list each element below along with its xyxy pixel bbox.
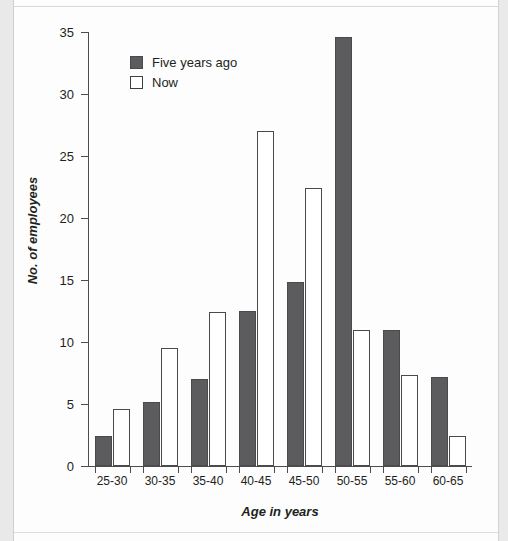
x-axis-tick — [287, 466, 288, 473]
x-axis-tick — [130, 466, 131, 473]
x-axis-tick — [191, 466, 192, 473]
y-axis-tick-label: 20 — [14, 211, 74, 226]
y-axis-tick-label: 25 — [14, 149, 74, 164]
bar-35-40-now — [209, 312, 226, 466]
x-axis-tick — [274, 466, 275, 473]
bar-55-60-five-years-ago — [383, 330, 400, 466]
legend-label-five-years-ago: Five years ago — [152, 55, 237, 70]
legend-item-five-years-ago: Five years ago — [130, 52, 237, 72]
x-axis-line — [88, 466, 472, 467]
x-axis-tick — [239, 466, 240, 473]
bar-chart-figure: 05101520253035 25-3030-3535-4040-4545-50… — [14, 8, 498, 533]
x-axis-tick — [226, 466, 227, 473]
bars-layer — [88, 32, 472, 466]
bar-60-65-five-years-ago — [431, 377, 448, 466]
x-axis-tick-label-25-30: 25-30 — [97, 474, 128, 488]
x-axis-tick — [383, 466, 384, 473]
bar-50-55-five-years-ago — [335, 37, 352, 466]
x-axis-tick-label-55-60: 55-60 — [385, 474, 416, 488]
x-axis-title: Age in years — [88, 504, 472, 519]
bar-25-30-now — [113, 409, 130, 466]
y-axis-tick-label: 15 — [14, 273, 74, 288]
x-axis-tick — [143, 466, 144, 473]
page-top-rule — [14, 6, 498, 7]
x-axis-tick — [322, 466, 323, 473]
x-axis-tick — [335, 466, 336, 473]
x-axis-tick-labels: 25-3030-3535-4040-4545-5050-5555-6060-65 — [88, 474, 472, 494]
bar-45-50-now — [305, 188, 322, 466]
y-axis-tick-label: 10 — [14, 335, 74, 350]
bar-55-60-now — [401, 375, 418, 466]
x-axis-tick-label-60-65: 60-65 — [433, 474, 464, 488]
bar-50-55-now — [353, 330, 370, 466]
x-axis-tick-label-50-55: 50-55 — [337, 474, 368, 488]
y-axis-tick — [81, 218, 88, 219]
y-axis-tick-label: 30 — [14, 87, 74, 102]
x-axis-tick — [418, 466, 419, 473]
y-axis-tick — [81, 466, 88, 467]
bar-45-50-five-years-ago — [287, 282, 304, 466]
y-axis-tick — [81, 32, 88, 33]
y-axis-title: No. of employees — [25, 151, 40, 311]
y-axis-tick-label: 5 — [14, 397, 74, 412]
legend-swatch-filled-dark-square — [130, 56, 143, 69]
y-axis-tick — [81, 280, 88, 281]
x-axis-tick — [370, 466, 371, 473]
y-axis-tick — [81, 156, 88, 157]
x-axis-tick-label-35-40: 35-40 — [193, 474, 224, 488]
x-axis-tick-label-40-45: 40-45 — [241, 474, 272, 488]
bar-30-35-now — [161, 348, 178, 466]
x-axis-tick-label-45-50: 45-50 — [289, 474, 320, 488]
chart-legend: Five years ago Now — [130, 52, 237, 92]
bar-60-65-now — [449, 436, 466, 466]
x-axis-tick — [431, 466, 432, 473]
y-axis-tick-label: 35 — [14, 25, 74, 40]
bar-40-45-now — [257, 131, 274, 466]
y-axis-tick — [81, 342, 88, 343]
legend-swatch-outlined-white-square — [130, 76, 143, 89]
page-left-edge-strip — [0, 0, 14, 541]
bar-30-35-five-years-ago — [143, 402, 160, 466]
y-axis-tick — [81, 404, 88, 405]
bar-40-45-five-years-ago — [239, 311, 256, 466]
y-axis-tick-label: 0 — [14, 459, 74, 474]
bar-35-40-five-years-ago — [191, 379, 208, 466]
page-right-edge-strip — [498, 0, 508, 541]
x-axis-tick — [178, 466, 179, 473]
y-axis-tick — [81, 94, 88, 95]
x-axis-tick-label-30-35: 30-35 — [145, 474, 176, 488]
x-axis-tick — [95, 466, 96, 473]
legend-label-now: Now — [152, 75, 178, 90]
bar-25-30-five-years-ago — [95, 436, 112, 466]
x-axis-tick — [466, 466, 467, 473]
legend-item-now: Now — [130, 72, 237, 92]
